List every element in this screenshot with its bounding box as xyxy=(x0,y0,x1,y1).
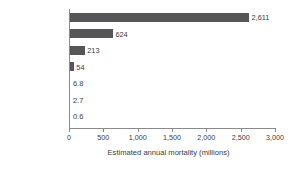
bar-row: Pesticides 2.7 xyxy=(69,92,275,109)
x-tick-label: 500 xyxy=(97,133,109,142)
x-tick-label: 3,000 xyxy=(266,133,284,142)
bar-row: Wind turbines 0.6 xyxy=(69,108,275,125)
value-label: 2.7 xyxy=(73,92,83,109)
bar-row: Automobiles 213 xyxy=(69,42,275,59)
x-tick xyxy=(241,128,242,132)
x-tick xyxy=(275,128,276,132)
bar-automobiles xyxy=(70,46,85,55)
value-label: 213 xyxy=(87,42,99,59)
x-tick-label: 1,500 xyxy=(163,133,181,142)
bar-row: Power lines 54 xyxy=(69,59,275,76)
x-tick xyxy=(69,128,70,132)
value-label: 0.6 xyxy=(73,108,83,125)
bar-power-lines xyxy=(70,62,74,71)
x-tick xyxy=(206,128,207,132)
bar-row: Cats 2,611 xyxy=(69,9,275,26)
x-tick xyxy=(172,128,173,132)
bar-windows xyxy=(70,29,113,38)
value-label: 2,611 xyxy=(252,9,270,26)
x-axis-title: Estimated annual mortality (millions) xyxy=(0,148,292,157)
x-tick xyxy=(138,128,139,132)
bar-chart: Cats 2,611 Windows 624 Automobiles 213 P… xyxy=(0,0,292,169)
x-axis-title-text: Estimated annual mortality (millions) xyxy=(108,148,230,157)
plot-area: Cats 2,611 Windows 624 Automobiles 213 P… xyxy=(69,9,275,128)
x-tick xyxy=(103,128,104,132)
value-label: 54 xyxy=(76,59,84,76)
value-label: 624 xyxy=(115,26,127,43)
x-tick-label: 2,500 xyxy=(232,133,250,142)
bar-cats xyxy=(70,13,249,22)
x-tick-label: 0 xyxy=(67,133,71,142)
x-tick-label: 2,000 xyxy=(197,133,215,142)
x-tick-label: 1,000 xyxy=(129,133,147,142)
value-label: 6.8 xyxy=(73,75,83,92)
bar-row: Communicationtowers 6.8 xyxy=(69,75,275,92)
bar-row: Windows 624 xyxy=(69,26,275,43)
